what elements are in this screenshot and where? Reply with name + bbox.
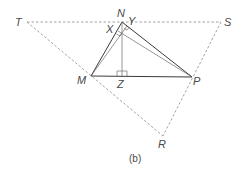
triangle-diagram: T S N X Y M Z P R (b) — [0, 0, 242, 175]
altitude-px — [118, 31, 192, 77]
dashed-line-tr — [27, 22, 163, 136]
label-t: T — [15, 16, 23, 28]
label-s: S — [224, 16, 232, 28]
figure-caption: (b) — [129, 153, 141, 164]
label-r: R — [158, 138, 166, 150]
label-n: N — [117, 7, 125, 19]
side-mp — [91, 76, 192, 77]
right-angle-mark-x — [117, 33, 122, 36]
right-angle-mark-z2 — [122, 71, 127, 76]
label-m: M — [77, 74, 87, 86]
label-z: Z — [116, 78, 125, 90]
side-np — [122, 22, 192, 77]
right-angle-mark-z — [117, 71, 122, 76]
dashed-line-sr — [163, 22, 221, 136]
label-x: X — [105, 23, 114, 35]
label-y: Y — [128, 15, 136, 27]
label-p: P — [193, 75, 201, 87]
